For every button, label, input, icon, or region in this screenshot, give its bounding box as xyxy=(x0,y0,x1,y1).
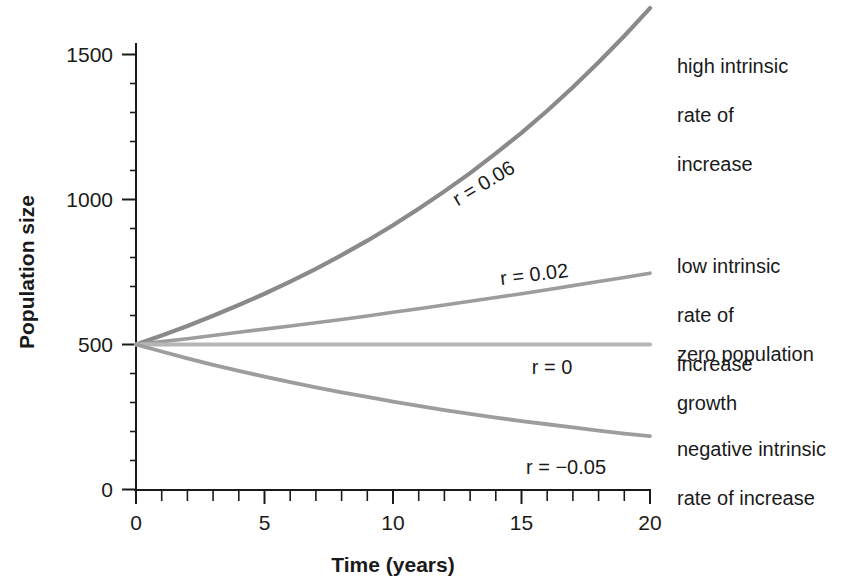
series-curve-high xyxy=(136,8,650,344)
annotation-negative-line1: negative intrinsic xyxy=(677,437,826,462)
series-curve-negative xyxy=(136,345,650,437)
y-axis-ticks xyxy=(122,55,136,490)
y-tick-label-1000: 1000 xyxy=(66,188,113,211)
annotation-low-line1: low intrinsic xyxy=(677,254,780,279)
x-tick-label-20: 20 xyxy=(638,511,661,534)
annotation-high-line2: rate of xyxy=(677,103,788,128)
y-tick-label-500: 500 xyxy=(78,333,113,356)
y-tick-label-1500: 1500 xyxy=(66,43,113,66)
population-growth-chart: 1500 1000 500 0 0 5 10 15 20 Time (years… xyxy=(0,0,863,584)
x-tick-label-15: 15 xyxy=(510,511,533,534)
y-tick-label-0: 0 xyxy=(101,478,113,501)
curve-label-negative: r = −0.05 xyxy=(526,456,606,478)
x-axis-title: Time (years) xyxy=(331,553,454,576)
annotation-negative-line2: rate of increase xyxy=(677,486,826,511)
series-curve-low xyxy=(136,273,650,344)
x-tick-label-10: 10 xyxy=(381,511,404,534)
x-tick-label-5: 5 xyxy=(259,511,271,534)
curve-label-low: r = 0.02 xyxy=(499,259,570,289)
annotation-negative-intrinsic: negative intrinsic rate of increase xyxy=(677,412,826,535)
annotation-high-line1: high intrinsic xyxy=(677,54,788,79)
annotation-high-line3: increase xyxy=(677,152,788,177)
curve-label-zero: r = 0 xyxy=(532,356,573,378)
annotation-high-intrinsic: high intrinsic rate of increase xyxy=(677,29,788,201)
annotation-zero-line1: zero population xyxy=(677,342,814,367)
y-axis-title: Population size xyxy=(15,195,38,349)
x-tick-label-0: 0 xyxy=(130,511,142,534)
